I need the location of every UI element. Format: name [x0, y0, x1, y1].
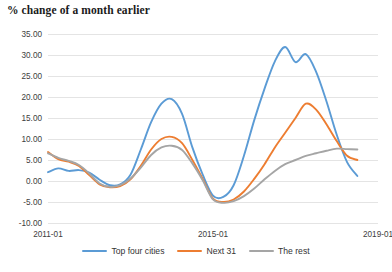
- legend-item[interactable]: Top four cities: [82, 246, 164, 256]
- chart-plot-area: 35.0030.0025.0020.0015.0010.005.000.00-5…: [0, 0, 392, 272]
- y-axis-tick-label: -10.00: [19, 219, 43, 228]
- legend-color-swatch: [249, 250, 274, 253]
- legend-item-label: Next 31: [206, 246, 236, 256]
- x-axis-labels: 2011-012015-012019-01: [33, 230, 392, 239]
- y-axis-tick-label: 35.00: [22, 30, 43, 39]
- chart-container: % change of a month earlier 35.0030.0025…: [0, 0, 392, 272]
- legend-item-label: Top four cities: [111, 246, 164, 256]
- x-axis-tick-label: 2019-01: [363, 230, 392, 239]
- series-line-top-four-cities: [48, 47, 357, 198]
- legend-item[interactable]: Next 31: [177, 246, 236, 256]
- y-axis-tick-label: 25.00: [22, 72, 43, 81]
- legend-item[interactable]: The rest: [249, 246, 310, 256]
- chart-legend: Top four citiesNext 31The rest: [0, 246, 392, 256]
- y-axis-tick-label: 0.00: [26, 177, 42, 186]
- y-axis-tick-label: 5.00: [26, 156, 42, 165]
- y-axis-tick-label: 30.00: [22, 51, 43, 60]
- legend-color-swatch: [177, 250, 202, 253]
- y-axis-tick-label: 15.00: [22, 114, 43, 123]
- series-group: [48, 47, 357, 203]
- y-axis-tick-label: 20.00: [22, 93, 43, 102]
- x-axis-tick-label: 2015-01: [198, 230, 228, 239]
- y-axis-tick-label: -5.00: [23, 198, 42, 207]
- y-axis-tick-label: 10.00: [22, 135, 43, 144]
- legend-item-label: The rest: [278, 246, 310, 256]
- legend-color-swatch: [82, 250, 107, 253]
- x-axis-tick-label: 2011-01: [33, 230, 63, 239]
- y-axis-labels: 35.0030.0025.0020.0015.0010.005.000.00-5…: [19, 30, 43, 228]
